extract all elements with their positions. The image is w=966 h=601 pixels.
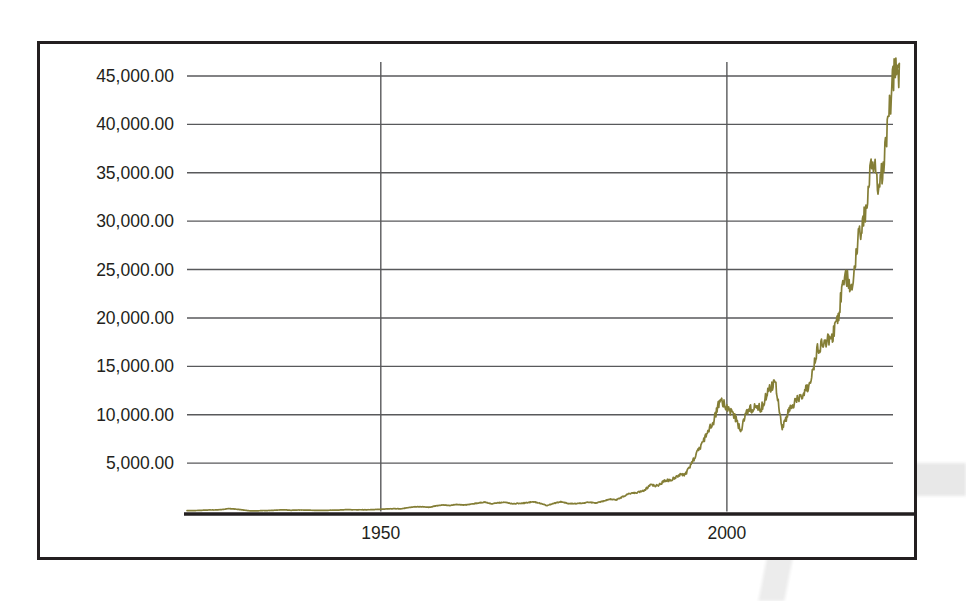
chart-page: 45,000.0040,000.0035,000.0030,000.0025,0… <box>0 0 966 601</box>
chart-frame <box>37 41 917 560</box>
